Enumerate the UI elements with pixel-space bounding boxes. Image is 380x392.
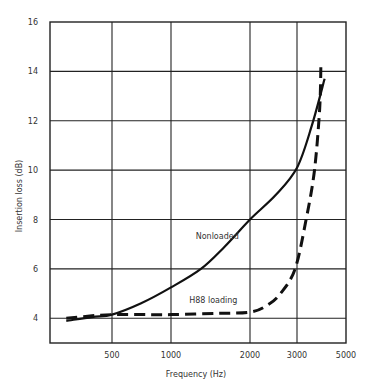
data-series (66, 64, 324, 321)
y-tick-label: 12 (28, 117, 38, 126)
y-axis-label: Insertion loss (dB) (15, 160, 24, 232)
y-tick-label: 8 (33, 216, 38, 225)
y-tick-label: 16 (28, 18, 38, 27)
curve-annotation: H88 loading (189, 296, 237, 305)
y-tick-label: 10 (28, 166, 38, 175)
h88-loading-curve (66, 64, 321, 318)
x-axis-label: Frequency (Hz) (166, 370, 226, 379)
y-axis-ticks: 46810121416 (28, 18, 38, 323)
insertion-loss-chart: 46810121416 5001000200030005000 Nonloade… (0, 0, 380, 392)
x-tick-label: 500 (104, 351, 119, 360)
x-axis-ticks: 5001000200030005000 (104, 351, 356, 360)
curve-annotation: Nonloaded (196, 232, 239, 241)
plot-frame (50, 22, 346, 343)
x-tick-label: 2000 (240, 351, 260, 360)
x-tick-label: 5000 (336, 351, 356, 360)
y-tick-label: 4 (33, 314, 38, 323)
x-tick-label: 3000 (287, 351, 307, 360)
x-tick-label: 1000 (161, 351, 181, 360)
y-tick-label: 14 (28, 67, 38, 76)
grid-lines (50, 22, 346, 343)
y-tick-label: 6 (33, 265, 38, 274)
